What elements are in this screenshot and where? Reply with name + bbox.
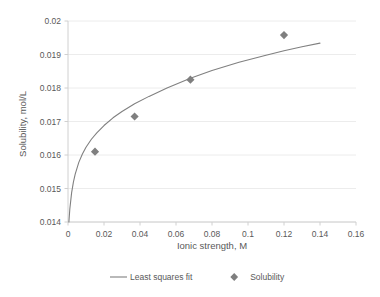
- x-tick-label: 0: [66, 229, 71, 239]
- chart-background: [0, 0, 380, 297]
- y-tick-label: 0.018: [40, 83, 62, 93]
- x-tick-label: 0.08: [204, 229, 221, 239]
- y-tick-label: 0.014: [40, 217, 62, 227]
- x-tick-label: 0.02: [96, 229, 113, 239]
- y-tick-label: 0.017: [40, 117, 62, 127]
- chart-canvas: 00.020.040.060.080.10.120.140.16 0.0140.…: [0, 0, 380, 297]
- y-tick-label: 0.019: [40, 50, 62, 60]
- chart-container: 00.020.040.060.080.10.120.140.16 0.0140.…: [0, 0, 380, 297]
- legend-label-least-squares-fit[interactable]: Least squares fit: [130, 272, 193, 282]
- solubility-vs-ionic-strength-chart: 00.020.040.060.080.10.120.140.16 0.0140.…: [0, 0, 380, 297]
- y-tick-label: 0.015: [40, 184, 62, 194]
- x-tick-label: 0.16: [348, 229, 365, 239]
- legend-label-solubility[interactable]: Solubility: [250, 272, 285, 282]
- x-tick-label: 0.12: [276, 229, 293, 239]
- x-tick-label: 0.14: [312, 229, 329, 239]
- x-axis-title: Ionic strength, M: [177, 240, 247, 251]
- x-tick-label: 0.06: [168, 229, 185, 239]
- y-tick-label: 0.02: [44, 16, 61, 26]
- y-tick-label: 0.016: [40, 150, 62, 160]
- y-axis-title: Solubility, mol/L: [17, 91, 28, 157]
- x-axis-tick-labels: 00.020.040.060.080.10.120.140.16: [66, 229, 365, 239]
- x-tick-label: 0.04: [132, 229, 149, 239]
- x-tick-label: 0.1: [242, 229, 254, 239]
